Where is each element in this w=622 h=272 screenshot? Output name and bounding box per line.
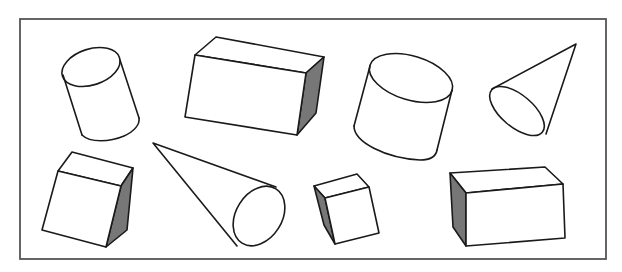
cube-2-front-face bbox=[325, 187, 379, 244]
box-2-front-face bbox=[466, 184, 565, 246]
box-2 bbox=[450, 167, 565, 246]
figure-svg bbox=[0, 0, 622, 272]
shapes-figure: Line drawing of eight 3D geometric solid… bbox=[0, 0, 622, 272]
